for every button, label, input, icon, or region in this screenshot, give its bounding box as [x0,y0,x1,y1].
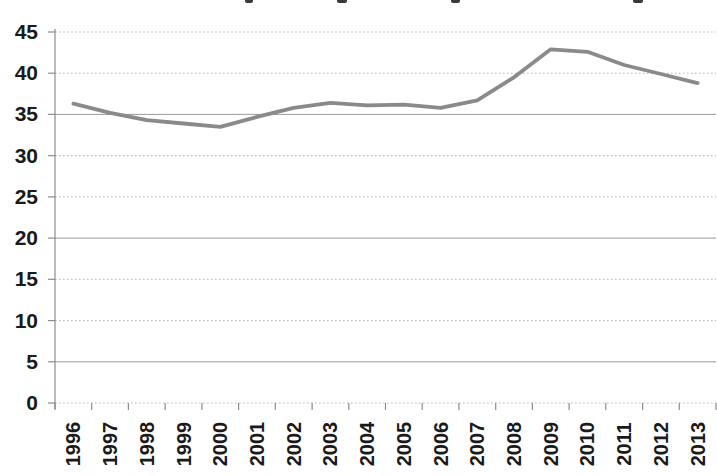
y-axis-tick-label: 35 [0,103,38,125]
y-axis-tick-label: 5 [0,351,38,373]
x-axis-tick-label: 2001 [247,413,267,475]
y-axis-tick-label: 30 [0,145,38,167]
y-axis-tick-label: 45 [0,21,38,43]
line-chart: 0510152025303540451996199719981999200020… [0,0,717,476]
x-axis-tick-label: 2002 [284,413,304,475]
y-axis-tick-label: 10 [0,310,38,332]
plot-area [0,0,717,476]
y-axis-tick-label: 20 [0,227,38,249]
x-axis-tick-label: 1997 [100,413,120,475]
x-axis-tick-label: 1999 [174,413,194,475]
x-axis-tick-label: 2010 [577,413,597,475]
x-axis-tick-label: 2004 [357,413,377,475]
x-axis-tick-label: 2008 [504,413,524,475]
x-axis-tick-label: 2003 [320,413,340,475]
y-axis-tick-label: 15 [0,268,38,290]
x-axis-tick-label: 2007 [467,413,487,475]
cropped-title-fragment [245,0,253,3]
x-axis-tick-label: 2006 [431,413,451,475]
data-series-line [73,49,697,127]
x-axis-tick-label: 2005 [394,413,414,475]
y-axis-tick-label: 40 [0,62,38,84]
x-axis-tick-label: 2000 [210,413,230,475]
x-axis-tick-label: 2011 [614,413,634,475]
x-axis-tick-label: 1996 [63,413,83,475]
cropped-title-fragment [337,0,347,3]
cropped-title-fragment [633,0,643,3]
y-axis-tick-label: 25 [0,186,38,208]
x-axis-tick-label: 2012 [651,413,671,475]
x-axis-tick-label: 2013 [688,413,708,475]
x-axis-tick-label: 2009 [541,413,561,475]
x-axis-tick-label: 1998 [137,413,157,475]
y-axis-tick-label: 0 [0,392,38,414]
cropped-title-fragment [451,0,460,3]
